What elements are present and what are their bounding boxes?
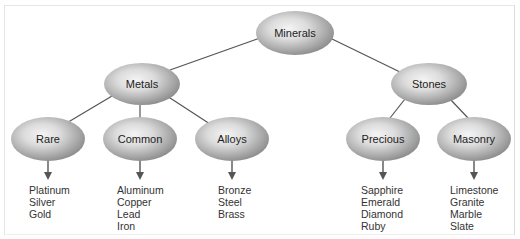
list-item: Bronze [218, 184, 251, 196]
node-metals: Metals [104, 63, 180, 105]
list-item: Platinum [29, 184, 70, 196]
node-rare: Rare [11, 117, 85, 161]
node-label: Masonry [453, 133, 495, 145]
node-precious: Precious [346, 117, 420, 161]
node-label: Common [118, 133, 163, 145]
list-item: Emerald [361, 196, 403, 208]
list-item: Ruby [361, 220, 403, 232]
edge-stones-precious [390, 99, 405, 118]
list-item: Silver [29, 196, 70, 208]
list-item: Diamond [361, 208, 403, 220]
list-rare: Platinum Silver Gold [29, 184, 70, 220]
edge-minerals-metals [170, 38, 260, 70]
list-item: Aluminum [117, 184, 164, 196]
list-item: Limestone [450, 184, 498, 196]
edge-metals-rare [65, 96, 112, 124]
node-stones: Stones [391, 63, 467, 105]
list-item: Lead [117, 208, 164, 220]
node-label: Rare [36, 133, 60, 145]
list-item: Gold [29, 208, 70, 220]
list-item: Steel [218, 196, 251, 208]
node-label: Metals [126, 78, 158, 90]
list-alloys: Bronze Steel Brass [218, 184, 251, 220]
edge-minerals-stones [330, 38, 400, 72]
node-minerals: Minerals [256, 11, 334, 55]
node-label: Precious [362, 133, 405, 145]
list-item: Sapphire [361, 184, 403, 196]
node-masonry: Masonry [437, 117, 511, 161]
node-label: Minerals [274, 27, 316, 39]
list-item: Slate [450, 220, 498, 232]
list-item: Iron [117, 220, 164, 232]
list-item: Granite [450, 196, 498, 208]
node-alloys: Alloys [195, 117, 269, 161]
edge-stones-masonry [450, 99, 468, 118]
list-item: Copper [117, 196, 164, 208]
list-masonry: Limestone Granite Marble Slate [450, 184, 498, 232]
list-precious: Sapphire Emerald Diamond Ruby [361, 184, 403, 232]
edge-metals-alloys [167, 96, 210, 124]
node-common: Common [103, 117, 177, 161]
node-label: Alloys [217, 133, 246, 145]
list-item: Brass [218, 208, 251, 220]
node-label: Stones [412, 78, 446, 90]
list-item: Marble [450, 208, 498, 220]
list-common: Aluminum Copper Lead Iron [117, 184, 164, 232]
